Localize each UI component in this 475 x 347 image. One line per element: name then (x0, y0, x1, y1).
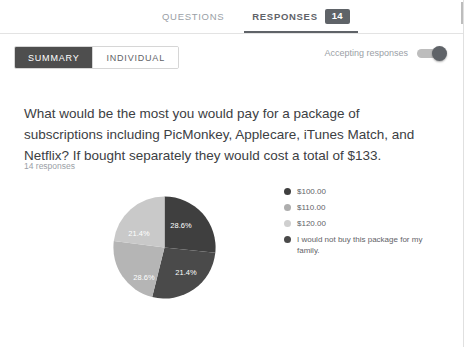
pie-slice-label-2: 28.6% (133, 273, 155, 282)
legend-item[interactable]: $120.00 (284, 218, 444, 229)
legend-item[interactable]: $100.00 (284, 186, 444, 197)
legend-swatch-icon (284, 236, 291, 243)
legend-swatch-icon (284, 204, 291, 211)
tab-list: QUESTIONS RESPONSES 14 (148, 0, 364, 33)
legend-item[interactable]: $110.00 (284, 202, 444, 213)
segment-summary-label: SUMMARY (28, 53, 79, 63)
segment-individual[interactable]: INDIVIDUAL (92, 47, 178, 68)
tab-responses[interactable]: RESPONSES 14 (238, 0, 364, 33)
tab-responses-label: RESPONSES (252, 11, 317, 22)
forms-responses-panel: QUESTIONS RESPONSES 14 SUMMARY INDIVIDUA… (0, 0, 475, 347)
accepting-responses-toggle[interactable] (417, 48, 445, 58)
tab-questions-label: QUESTIONS (162, 11, 224, 22)
legend-item-label: $100.00 (297, 186, 326, 197)
pie-slice-3[interactable] (114, 196, 165, 247)
tab-bar: QUESTIONS RESPONSES 14 (0, 0, 463, 34)
responses-count-badge: 14 (325, 9, 350, 24)
view-mode-segmented-control: SUMMARY INDIVIDUAL (14, 46, 179, 69)
accepting-responses-label: Accepting responses (324, 48, 408, 58)
scrollbar-nub[interactable] (461, 2, 463, 24)
pie-slice-label-3: 21.4% (128, 229, 150, 238)
segment-summary[interactable]: SUMMARY (15, 47, 92, 68)
legend-item[interactable]: I would not buy this package for my fami… (284, 234, 444, 256)
legend-item-label: $120.00 (297, 218, 326, 229)
pie-slice-label-1: 21.4% (175, 268, 197, 277)
pie-chart-area: 28.6% 21.4% 28.6% 21.4% $100.00 $110.00 (0, 178, 463, 318)
accepting-responses-control: Accepting responses (324, 48, 445, 58)
pie-chart-svg: 28.6% 21.4% 28.6% 21.4% (113, 196, 216, 299)
legend-item-label: I would not buy this package for my fami… (297, 234, 444, 256)
pie-chart-legend: $100.00 $110.00 $120.00 I would not buy … (284, 186, 444, 261)
pie-chart: 28.6% 21.4% 28.6% 21.4% (113, 196, 216, 299)
question-title: What would be the most you would pay for… (24, 103, 424, 166)
pie-slice-label-0: 28.6% (170, 221, 192, 230)
legend-swatch-icon (284, 220, 291, 227)
pie-slices (113, 196, 215, 298)
summary-controls-row: SUMMARY INDIVIDUAL Accepting responses (0, 34, 463, 78)
toggle-knob (432, 46, 447, 61)
panel-right-edge (463, 0, 464, 347)
question-summary-card: What would be the most you would pay for… (0, 78, 463, 347)
segment-individual-label: INDIVIDUAL (106, 53, 165, 63)
response-count-text: 14 responses (24, 161, 75, 171)
legend-swatch-icon (284, 188, 291, 195)
legend-item-label: $110.00 (297, 202, 325, 213)
tab-questions[interactable]: QUESTIONS (148, 0, 238, 33)
